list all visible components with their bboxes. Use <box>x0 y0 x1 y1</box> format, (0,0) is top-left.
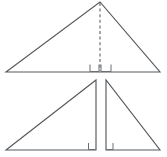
geometry-canvas <box>0 0 167 157</box>
geometry-figure <box>0 0 167 157</box>
figure-background <box>0 0 167 157</box>
